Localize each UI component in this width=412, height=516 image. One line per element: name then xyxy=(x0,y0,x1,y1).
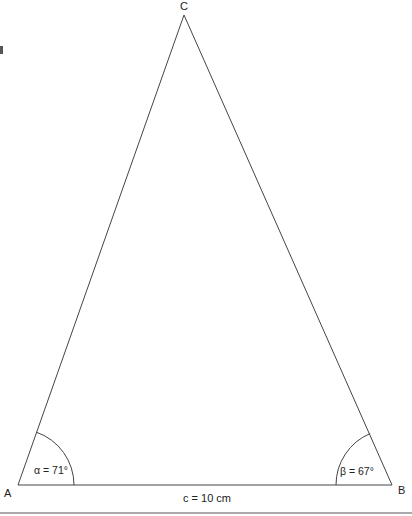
vertex-label-c: C xyxy=(180,0,188,12)
angle-beta-arc xyxy=(336,434,370,486)
vertex-label-a: A xyxy=(4,487,11,499)
angle-beta-label: β = 67° xyxy=(340,465,374,477)
triangle-abc xyxy=(18,15,392,485)
angle-alpha-arc xyxy=(36,432,74,485)
vertex-label-b: B xyxy=(398,484,405,496)
angle-alpha-label: α = 71° xyxy=(34,464,68,476)
triangle-diagram xyxy=(0,0,412,516)
side-c-label: c = 10 cm xyxy=(183,492,231,504)
